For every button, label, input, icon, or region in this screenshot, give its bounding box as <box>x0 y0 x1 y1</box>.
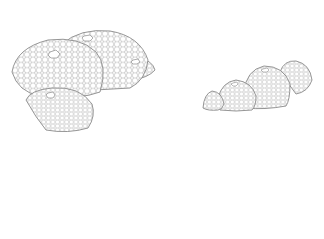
left-dome-cluster <box>12 31 155 132</box>
right-dome-cluster <box>203 61 312 111</box>
dome-cluster-illustration <box>0 0 324 239</box>
